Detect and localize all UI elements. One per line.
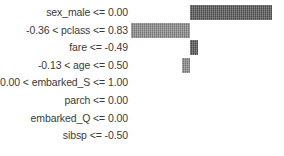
feature-label: sex_male <= 0.00	[46, 4, 128, 22]
feature-bar	[131, 23, 190, 38]
plot-area: sex_male <= 0.00-0.36 < pclass <= 0.83fa…	[0, 0, 284, 156]
feature-bar	[190, 5, 272, 20]
feature-label: parch <= 0.00	[65, 92, 129, 110]
chart-row: -0.13 < age <= 0.50	[0, 57, 284, 75]
chart-row: sibsp <= -0.50	[0, 127, 284, 145]
feature-label: sibsp <= -0.50	[63, 127, 128, 145]
feature-bar	[190, 40, 198, 55]
chart-row: -0.36 < pclass <= 0.83	[0, 22, 284, 40]
chart-row: sex_male <= 0.00	[0, 4, 284, 22]
chart-row: fare <= -0.49	[0, 39, 284, 57]
chart-row: 0.00 < embarked_S <= 1.00	[0, 74, 284, 92]
feature-label: -0.13 < age <= 0.50	[38, 57, 128, 75]
feature-label: -0.36 < pclass <= 0.83	[26, 22, 128, 40]
chart-row: embarked_Q <= 0.00	[0, 110, 284, 128]
feature-label: embarked_Q <= 0.00	[31, 110, 128, 128]
feature-bar	[182, 58, 190, 73]
chart-row: parch <= 0.00	[0, 92, 284, 110]
feature-label: 0.00 < embarked_S <= 1.00	[0, 74, 128, 92]
feature-label: fare <= -0.49	[69, 39, 128, 57]
feature-importance-chart: sex_male <= 0.00-0.36 < pclass <= 0.83fa…	[0, 0, 284, 156]
